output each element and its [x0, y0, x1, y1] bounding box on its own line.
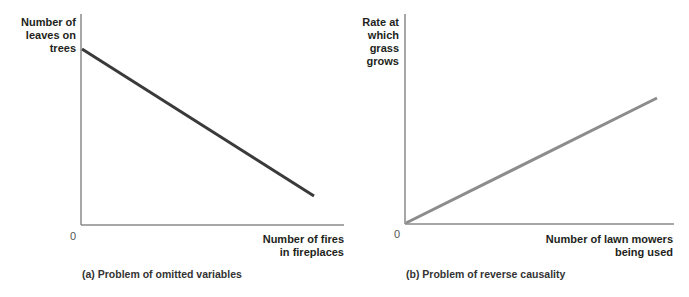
- x-axis-label: Number of fires in fireplaces: [200, 233, 344, 259]
- x-axis-label: Number of lawn mowers being used: [474, 233, 673, 259]
- y-axis-label: Number of leaves on trees: [0, 16, 76, 55]
- panel-omitted-variables: Number of leaves on trees 0 Number of fi…: [0, 0, 344, 297]
- positive-trend-line: [406, 98, 657, 223]
- y-axis-label: Rate at which grass grows: [344, 16, 399, 68]
- negative-trend-line: [82, 49, 314, 196]
- figure-caption: (b) Problem of reverse causality: [406, 268, 565, 280]
- panel-reverse-causality: Rate at which grass grows 0 Number of la…: [344, 0, 689, 297]
- figure-caption: (a) Problem of omitted variables: [82, 268, 242, 280]
- origin-label: 0: [70, 230, 76, 242]
- origin-label: 0: [394, 228, 400, 240]
